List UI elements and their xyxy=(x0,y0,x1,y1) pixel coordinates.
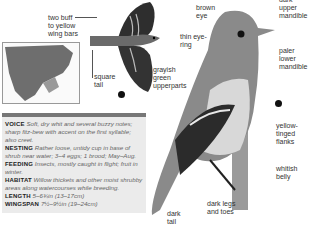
label-whitish-belly: whitish belly xyxy=(276,165,306,181)
info-wingspan: WINGSPAN 7½–9½in (19–24cm) xyxy=(5,200,143,208)
label-yellow-tinged-flanks: yellow-tinged flanks xyxy=(276,122,309,146)
label-brown-eye: brown eye xyxy=(196,4,220,20)
info-feeding: FEEDING Insects, mostly caught in flight… xyxy=(5,160,143,176)
label-square-tail: square tail xyxy=(94,73,114,89)
info-nesting: NESTING Rather loose, untidy cup in base… xyxy=(5,144,143,160)
label-grayish-green-upperparts: grayish green upperparts xyxy=(153,66,187,90)
label-lower-mandible: paler lower mandible xyxy=(279,47,309,71)
label-dark-legs: dark legs and toes xyxy=(207,200,243,216)
label-upper-mandible: dark upper mandible xyxy=(279,0,309,20)
label-wing-bars: two buff to yellow wing bars xyxy=(48,14,78,38)
info-length: LENGTH 5–6¾in (13–17cm) xyxy=(5,192,143,200)
info-habitat: HABITAT Willow thickets and other moist … xyxy=(5,176,143,192)
info-voice: VOICE Soft, dry whit and several buzzy n… xyxy=(5,120,143,144)
label-thin-eye-ring: thin eye-ring xyxy=(180,33,210,49)
male-female-symbol-icon xyxy=(275,100,282,107)
range-map xyxy=(2,42,80,104)
label-dark-tail: dark tail xyxy=(167,210,187,226)
species-info-panel: VOICE Soft, dry whit and several buzzy n… xyxy=(2,117,146,213)
male-female-symbol-icon xyxy=(118,91,125,98)
